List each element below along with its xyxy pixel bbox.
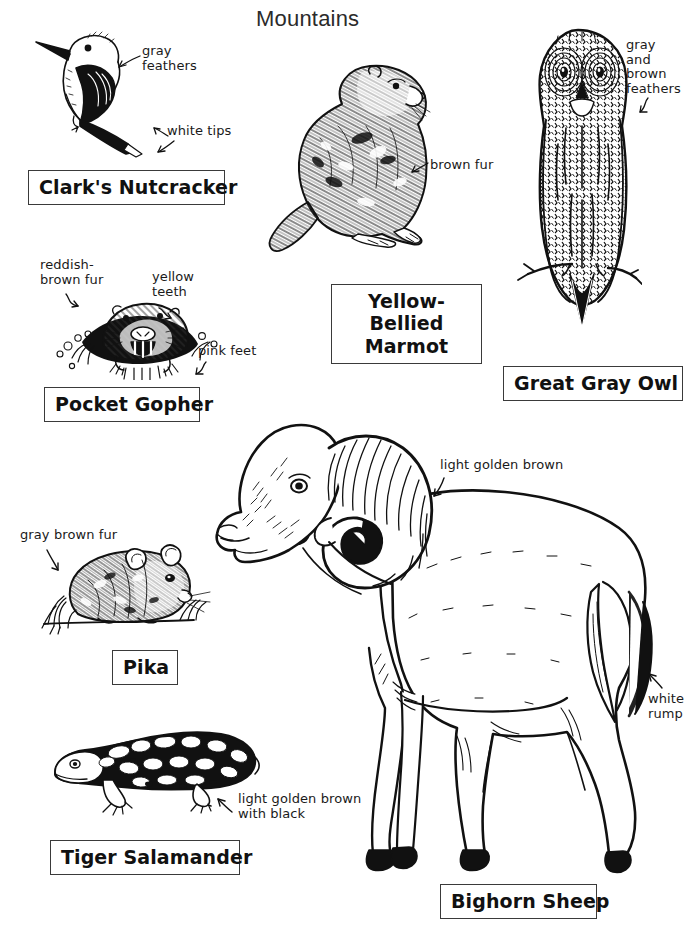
arrow-reddish-brown-fur (62, 292, 84, 310)
annotation-pink-feet: pink feet (198, 344, 256, 359)
annotation-gray-and-brown-feathers: gray and brown feathers (626, 38, 681, 96)
annotation-brown-fur: brown fur (430, 158, 493, 173)
marmot-name-line-2: Marmot (365, 335, 449, 357)
annotation-white-tips: white tips (167, 124, 231, 139)
arrow-gray-and-brown-feathers (632, 96, 654, 118)
marmot-name-line-1: Yellow-Bellied (368, 290, 445, 334)
arrow-white-tips-lower (156, 139, 176, 155)
annotation-light-golden-brown: light golden brown (440, 458, 563, 473)
annotation-gray-brown-fur: gray brown fur (20, 528, 117, 543)
arrow-white-rump (646, 672, 668, 692)
yellow-bellied-marmot-illustration (238, 42, 438, 272)
species-label-clarks-nutcracker[interactable]: Clark's Nutcracker (28, 170, 225, 205)
species-label-pika[interactable]: Pika (112, 650, 178, 685)
annotation-white-rump: white rump (648, 692, 684, 721)
species-label-pocket-gopher[interactable]: Pocket Gopher (44, 387, 200, 422)
annotation-yellow-teeth: yellow teeth (152, 270, 194, 299)
arrow-yellow-teeth (155, 305, 177, 323)
arrow-white-tips-upper (152, 126, 170, 140)
great-gray-owl-illustration (512, 24, 642, 344)
clarks-nutcracker-illustration (30, 20, 170, 165)
annotation-reddish-brown-fur: reddish- brown fur (40, 258, 103, 287)
arrow-brown-fur (410, 160, 430, 176)
arrow-pink-feet (192, 360, 214, 378)
species-label-yellow-bellied-marmot[interactable]: Yellow-Bellied Marmot (331, 284, 482, 364)
mountains-field-guide-page: Mountains (0, 0, 692, 929)
page-title: Mountains (256, 6, 359, 32)
pika-illustration (30, 530, 220, 640)
species-label-bighorn-sheep[interactable]: Bighorn Sheep (440, 884, 597, 919)
arrow-gray-brown-fur (44, 548, 64, 574)
arrow-light-golden-brown (430, 476, 452, 500)
bighorn-sheep-illustration (195, 392, 675, 882)
annotation-gray-feathers: gray feathers (142, 44, 197, 73)
arrow-gray-feathers (116, 52, 142, 72)
